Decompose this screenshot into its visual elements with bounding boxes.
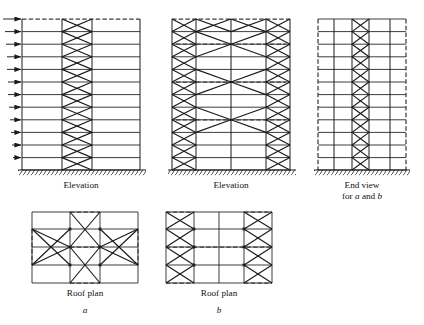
structural-bracing-figure: Elevation Elevation End view for a and b… <box>0 0 424 325</box>
end-view-letter-b: b <box>377 191 382 201</box>
caption-roof-plan-b: Roof plan <box>201 288 238 298</box>
roof-a-dashed-edges <box>32 212 138 283</box>
panel-end-view <box>314 19 410 175</box>
caption-elevation-b: Elevation <box>213 180 249 190</box>
label-scheme-a: a <box>83 305 88 315</box>
ground-support-end <box>314 170 410 175</box>
caption-roof-plan-a: Roof plan <box>67 288 104 298</box>
panel-roof-plan-a <box>32 212 138 283</box>
caption-elevation-a: Elevation <box>63 180 99 190</box>
caption-end-view-line2: for a and b <box>342 191 382 201</box>
ground-support-a <box>18 170 146 175</box>
end-view-and-text: and <box>360 191 378 201</box>
lateral-load-arrows <box>3 19 21 158</box>
label-scheme-b: b <box>217 305 222 315</box>
floor-beams-end <box>318 19 406 170</box>
panel-roof-plan-b <box>166 212 272 283</box>
end-view-for-text: for <box>342 191 355 201</box>
panel-elevation-a <box>3 19 146 175</box>
caption-end-view-line1: End view <box>345 180 380 190</box>
panel-elevation-b <box>168 19 296 175</box>
figure-canvas: Elevation Elevation End view for a and b… <box>0 0 424 325</box>
ground-support-b <box>168 170 296 175</box>
